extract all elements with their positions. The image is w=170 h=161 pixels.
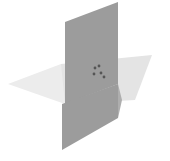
point-marker-d <box>100 72 103 75</box>
figure-container <box>0 0 170 161</box>
point-marker-b <box>98 65 101 68</box>
intersecting-planes-svg <box>0 0 170 161</box>
point-marker-e <box>103 76 106 79</box>
point-marker-c <box>93 73 96 76</box>
point-marker-a <box>94 67 97 70</box>
